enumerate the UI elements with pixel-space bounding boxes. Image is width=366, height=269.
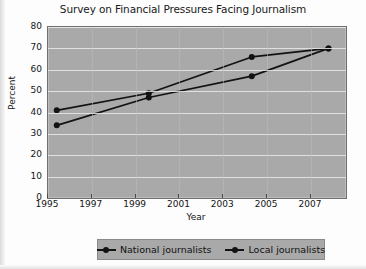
legend-entry[interactable]: National journalists xyxy=(97,244,212,255)
y-axis-label: Percent xyxy=(7,63,17,123)
line-dot-marker xyxy=(97,245,116,254)
line-dot-marker xyxy=(225,245,244,254)
gridline-vertical xyxy=(267,27,268,198)
series-line xyxy=(57,48,329,110)
chart-legend: National journalistsLocal journalists xyxy=(97,239,325,260)
x-tick-mark xyxy=(47,194,48,198)
y-tick-label: 30 xyxy=(20,128,42,138)
legend-label: Local journalists xyxy=(248,244,325,255)
x-tick-mark xyxy=(310,194,311,198)
x-axis-label: Year xyxy=(47,212,345,222)
gridline-vertical xyxy=(223,27,224,198)
y-tick-label: 10 xyxy=(20,171,42,181)
y-tick-label: 20 xyxy=(20,149,42,159)
data-point-marker xyxy=(54,122,60,128)
y-tick-label: 40 xyxy=(20,107,42,117)
data-point-marker xyxy=(249,73,255,79)
y-tick-label: 70 xyxy=(20,42,42,52)
plot-area xyxy=(47,26,347,199)
x-tick-label: 2001 xyxy=(158,199,198,209)
data-point-marker xyxy=(249,54,255,60)
legend-label: National journalists xyxy=(120,244,212,255)
x-tick-label: 1995 xyxy=(27,199,67,209)
series-line xyxy=(57,48,329,125)
x-tick-label: 1997 xyxy=(71,199,111,209)
x-tick-mark xyxy=(91,194,92,198)
x-tick-mark xyxy=(266,194,267,198)
x-tick-mark xyxy=(222,194,223,198)
x-tick-label: 2003 xyxy=(202,199,242,209)
x-tick-label: 2007 xyxy=(290,199,330,209)
x-axis-ticks: 1995199719992001200320052007 xyxy=(47,199,345,213)
legend-entry[interactable]: Local journalists xyxy=(225,244,325,255)
chart-title: Survey on Financial Pressures Facing Jou… xyxy=(0,3,366,15)
data-point-marker xyxy=(146,95,152,101)
gridline-vertical xyxy=(311,27,312,198)
y-axis-ticks: 01020304050607080 xyxy=(18,26,42,197)
x-tick-mark xyxy=(178,194,179,198)
y-tick-label: 50 xyxy=(20,85,42,95)
gridline-vertical xyxy=(136,27,137,198)
y-tick-label: 60 xyxy=(20,64,42,74)
x-tick-label: 1999 xyxy=(115,199,155,209)
x-tick-mark xyxy=(135,194,136,198)
y-tick-label: 80 xyxy=(20,21,42,31)
chart-figure: Survey on Financial Pressures Facing Jou… xyxy=(0,0,366,269)
gridline-vertical xyxy=(179,27,180,198)
gridline-vertical xyxy=(92,27,93,198)
x-tick-label: 2005 xyxy=(246,199,286,209)
